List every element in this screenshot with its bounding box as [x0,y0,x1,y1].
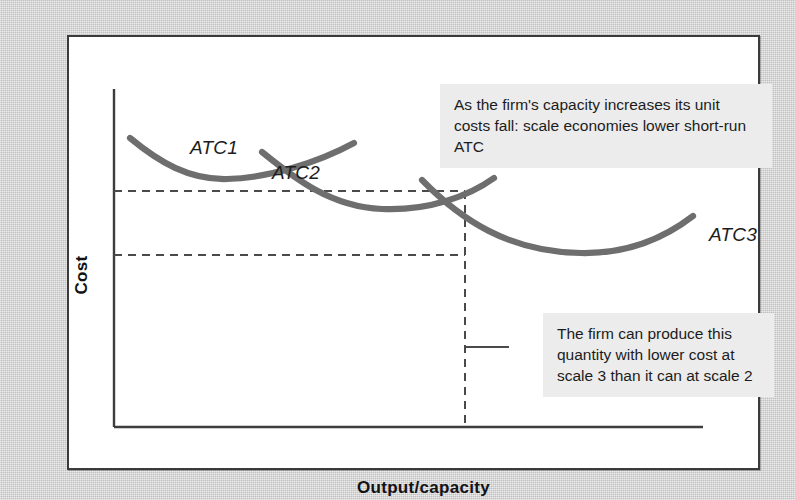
x-axis-title: Output/capacity [357,478,490,498]
figure-root: ATC1 ATC2 ATC3 Cost Output/capacity As t… [0,0,795,500]
curve-atc1 [130,138,354,179]
curve-atc3 [422,180,693,253]
chart-panel: ATC1 ATC2 ATC3 Cost Output/capacity As t… [67,35,760,470]
annotation-lower-cost: The firm can produce this quantity with … [543,313,774,397]
y-axis-title: Cost [72,256,92,295]
curve-label-atc1: ATC1 [190,137,238,159]
annotation-scale-economies: As the firm's capacity increases its uni… [440,84,772,168]
curve-label-atc3: ATC3 [709,224,757,246]
curve-label-atc2: ATC2 [272,162,320,184]
